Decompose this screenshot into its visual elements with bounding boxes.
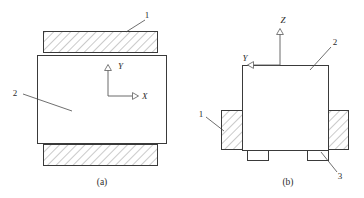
panel-b-left-clamp-block xyxy=(222,111,244,150)
panel-a-part-label-2: 2 xyxy=(13,88,18,98)
panel-a-group: 1 2 Y X (a) xyxy=(13,10,167,188)
figure-canvas: 1 2 Y X (a) xyxy=(0,0,364,198)
panel-a-caption: (a) xyxy=(97,177,108,188)
panel-a-bottom-clamp-block xyxy=(44,145,158,166)
technical-figure: 1 2 Y X (a) xyxy=(0,0,364,198)
panel-b-foot-left xyxy=(248,151,269,161)
panel-b-foot-right xyxy=(308,151,329,161)
panel-a-leader-1 xyxy=(126,20,145,32)
panel-b-axis-z-arrowhead xyxy=(277,29,284,35)
panel-b-part-label-1: 1 xyxy=(199,109,204,119)
panel-b-axis-label-y: Y xyxy=(242,53,248,63)
panel-b-right-clamp-block xyxy=(328,111,349,150)
panel-a-part-label-1: 1 xyxy=(145,10,150,20)
panel-b-axes xyxy=(248,29,284,69)
panel-a-axis-label-x: X xyxy=(141,91,148,101)
panel-b-caption: (b) xyxy=(282,177,293,188)
panel-b-group: 1 2 3 Z Y (b) xyxy=(199,15,349,188)
panel-b-axis-label-z: Z xyxy=(280,15,286,25)
panel-b-part-label-3: 3 xyxy=(338,171,343,181)
panel-b-main-body xyxy=(243,66,329,151)
panel-a-top-clamp-block xyxy=(44,32,158,53)
panel-b-part-label-2: 2 xyxy=(333,37,338,47)
